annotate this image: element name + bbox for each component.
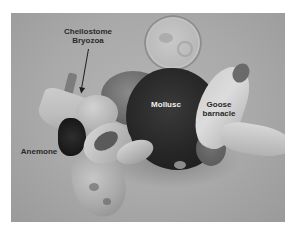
label-anemone: Anemone bbox=[16, 147, 62, 156]
label-line: Bryozoa bbox=[58, 36, 118, 45]
label-line: Goose bbox=[198, 100, 240, 109]
anemone bbox=[58, 118, 86, 156]
label-line: Cheilostome bbox=[58, 27, 118, 36]
barnacle-spot bbox=[89, 183, 99, 191]
label-line: barnacle bbox=[198, 109, 240, 118]
coin-emblem bbox=[159, 33, 173, 43]
specimen-photo bbox=[11, 13, 285, 222]
small-nub bbox=[174, 161, 186, 169]
barnacle-spot bbox=[103, 198, 111, 205]
label-mollusc: Mollusc bbox=[146, 100, 186, 109]
coin-emblem bbox=[177, 41, 193, 57]
label-goose-barnacle: Goose barnacle bbox=[198, 100, 240, 118]
label-cheilostome-bryozoa: Cheilostome Bryozoa bbox=[58, 27, 118, 45]
coin-for-scale bbox=[144, 15, 202, 71]
